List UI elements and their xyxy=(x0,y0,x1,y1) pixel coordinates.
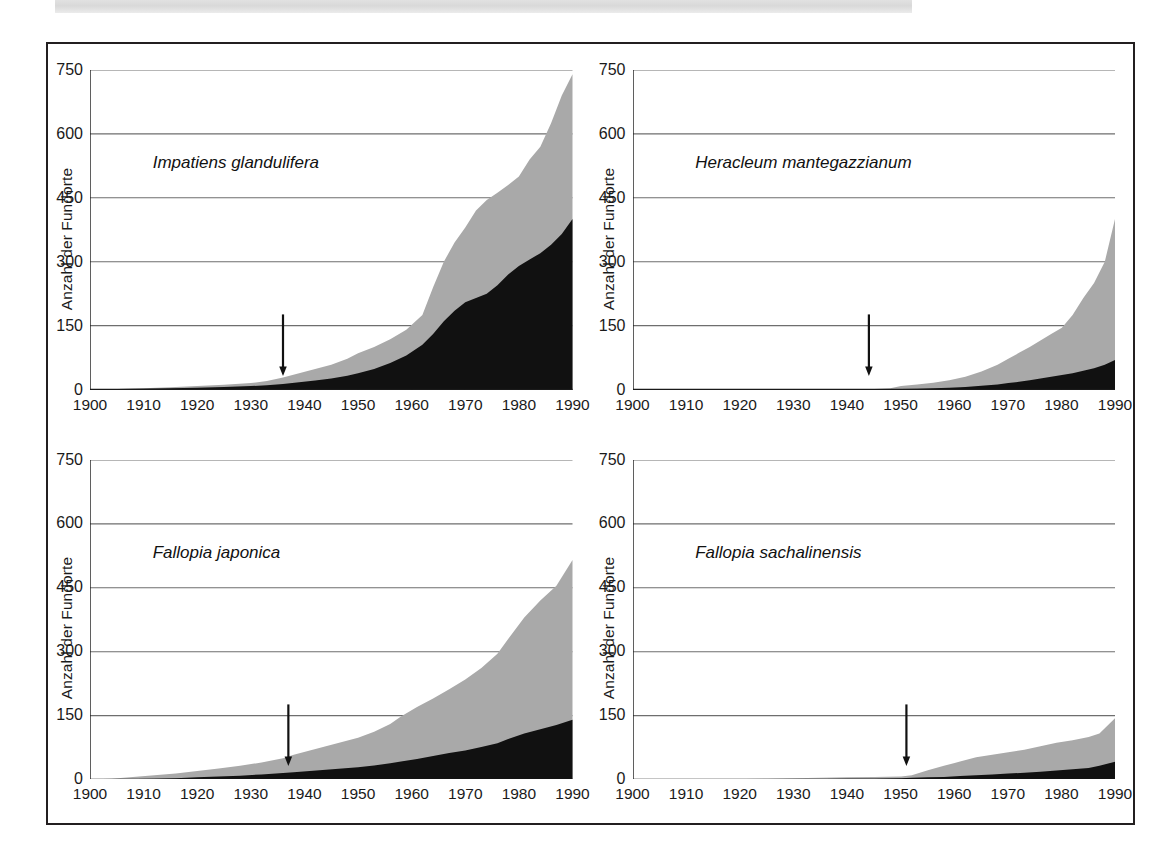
plot-area xyxy=(90,70,573,390)
x-tick-label: 1980 xyxy=(1044,785,1078,803)
y-axis-title: Anzahl der Fundorte xyxy=(54,44,80,434)
y-tick-label: 600 xyxy=(599,514,626,532)
plot-wrap: 0150300450600750 Heracleum mantegazzianu… xyxy=(633,70,1116,390)
x-tick-label: 1990 xyxy=(1098,785,1132,803)
y-tick-label: 450 xyxy=(599,578,626,596)
x-tick-label: 1960 xyxy=(937,396,971,414)
x-tick-label: 1990 xyxy=(1098,396,1132,414)
introduction-year-arrow xyxy=(285,704,293,766)
chart-panel-heracleum-mantegazzianum: Anzahl der Fundorte 0150300450600750 Her… xyxy=(591,44,1134,434)
x-tick-label: 1950 xyxy=(341,396,375,414)
x-tick-label: 1970 xyxy=(448,785,482,803)
y-tick-label: 750 xyxy=(56,451,83,469)
introduction-year-arrow xyxy=(279,314,287,376)
y-tick-label: 150 xyxy=(599,317,626,335)
x-tick-label: 1960 xyxy=(937,785,971,803)
x-tick-label: 1930 xyxy=(776,785,810,803)
x-tick-label: 1940 xyxy=(830,785,864,803)
x-tick-label: 1940 xyxy=(287,785,321,803)
x-tick-label: 1910 xyxy=(126,785,160,803)
introduction-year-arrow xyxy=(902,704,910,766)
x-tick-label: 1950 xyxy=(883,785,917,803)
y-tick-label: 600 xyxy=(56,514,83,532)
x-tick-label: 1960 xyxy=(394,396,428,414)
x-tick-label: 1930 xyxy=(234,785,268,803)
area-chart-svg xyxy=(90,70,573,390)
plot-area xyxy=(633,70,1116,390)
x-tick-label: 1960 xyxy=(394,785,428,803)
y-tick-label: 450 xyxy=(56,578,83,596)
y-tick-label: 750 xyxy=(599,451,626,469)
x-tick-label: 1900 xyxy=(615,785,649,803)
x-tick-label: 1930 xyxy=(776,396,810,414)
y-tick-label: 150 xyxy=(599,706,626,724)
x-tick-label: 1920 xyxy=(722,396,756,414)
x-tick-label: 1990 xyxy=(555,785,589,803)
plot-wrap: 0150300450600750 Impatiens glandulifera xyxy=(90,70,573,390)
y-tick-label: 300 xyxy=(599,642,626,660)
x-tick-label: 1920 xyxy=(722,785,756,803)
x-tick-label: 1980 xyxy=(502,396,536,414)
chart-panel-fallopia-japonica: Anzahl der Fundorte 0150300450600750 Fal… xyxy=(48,434,591,824)
y-tick-label: 300 xyxy=(56,642,83,660)
scan-artifact-band xyxy=(55,0,912,13)
x-tick-label: 1900 xyxy=(73,785,107,803)
x-tick-label: 1970 xyxy=(448,396,482,414)
x-tick-label: 1980 xyxy=(502,785,536,803)
x-tick-label: 1990 xyxy=(555,396,589,414)
y-tick-label: 150 xyxy=(56,317,83,335)
x-tick-label: 1970 xyxy=(991,785,1025,803)
plot-area xyxy=(633,460,1116,780)
y-tick-label: 750 xyxy=(56,61,83,79)
x-tick-label: 1920 xyxy=(180,785,214,803)
y-tick-label: 450 xyxy=(599,189,626,207)
plot-wrap: 0150300450600750 Fallopia sachalinensis xyxy=(633,460,1116,780)
x-tick-labels: 1900191019201930194019501960197019801990 xyxy=(633,396,1116,418)
x-tick-label: 1910 xyxy=(669,785,703,803)
y-tick-label: 150 xyxy=(56,706,83,724)
y-tick-label: 450 xyxy=(56,189,83,207)
x-tick-labels: 1900191019201930194019501960197019801990 xyxy=(90,396,573,418)
y-tick-label: 600 xyxy=(56,125,83,143)
y-axis-title: Anzahl der Fundorte xyxy=(597,434,623,824)
x-tick-label: 1900 xyxy=(73,396,107,414)
x-tick-label: 1940 xyxy=(287,396,321,414)
x-tick-label: 1950 xyxy=(341,785,375,803)
y-tick-label: 300 xyxy=(599,253,626,271)
area-chart-svg xyxy=(633,70,1116,390)
x-tick-label: 1920 xyxy=(180,396,214,414)
x-tick-label: 1910 xyxy=(669,396,703,414)
panel-grid: Anzahl der Fundorte 0150300450600750 Imp… xyxy=(48,44,1133,823)
x-tick-label: 1970 xyxy=(991,396,1025,414)
x-tick-label: 1930 xyxy=(234,396,268,414)
x-tick-label: 1950 xyxy=(883,396,917,414)
plot-area xyxy=(90,460,573,780)
chart-panel-impatiens-glandulifera: Anzahl der Fundorte 0150300450600750 Imp… xyxy=(48,44,591,434)
x-tick-label: 1940 xyxy=(830,396,864,414)
x-tick-label: 1980 xyxy=(1044,396,1078,414)
x-tick-labels: 1900191019201930194019501960197019801990 xyxy=(633,785,1116,807)
area-chart-svg xyxy=(633,460,1116,780)
figure-frame: Anzahl der Fundorte 0150300450600750 Imp… xyxy=(46,42,1135,825)
y-tick-label: 750 xyxy=(599,61,626,79)
x-tick-labels: 1900191019201930194019501960197019801990 xyxy=(90,785,573,807)
introduction-year-arrow xyxy=(865,314,873,376)
plot-wrap: 0150300450600750 Fallopia japonica xyxy=(90,460,573,780)
x-tick-label: 1910 xyxy=(126,396,160,414)
area-chart-svg xyxy=(90,460,573,780)
y-axis-title: Anzahl der Fundorte xyxy=(597,44,623,434)
y-tick-label: 600 xyxy=(599,125,626,143)
chart-panel-fallopia-sachalinensis: Anzahl der Fundorte 0150300450600750 Fal… xyxy=(591,434,1134,824)
x-tick-label: 1900 xyxy=(615,396,649,414)
y-axis-title: Anzahl der Fundorte xyxy=(54,434,80,824)
y-tick-label: 300 xyxy=(56,253,83,271)
